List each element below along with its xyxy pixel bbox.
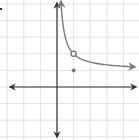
function-curve — [61, 1, 135, 67]
filled-point — [72, 68, 76, 72]
open-circle-hole — [71, 51, 76, 56]
corner-mark — [0, 8, 2, 10]
function-graph — [0, 0, 139, 140]
grid-lines — [0, 0, 139, 140]
